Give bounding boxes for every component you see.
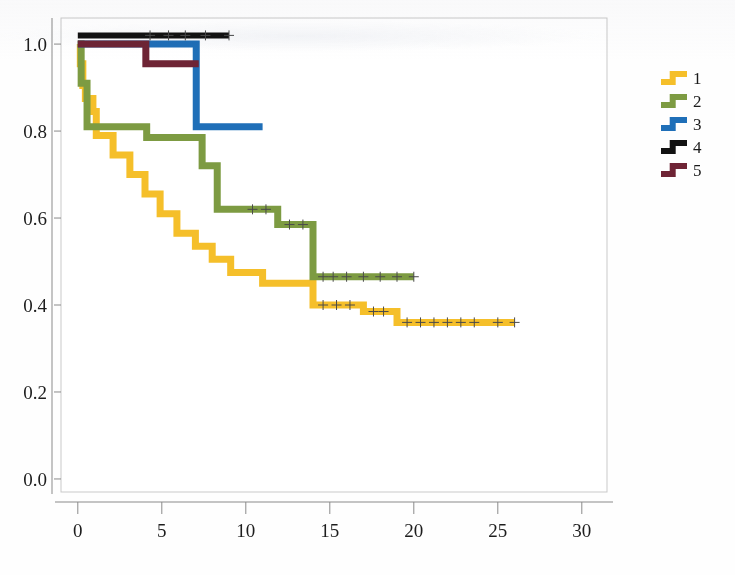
y-tick-label-0.8: 0.8 (23, 121, 47, 142)
legend-label-4: 4 (693, 138, 702, 157)
x-tick-label-25: 25 (488, 520, 507, 541)
legend-swatch-1 (661, 74, 687, 82)
legend-swatch-5 (661, 166, 687, 174)
y-tick-label-1.0: 1.0 (23, 34, 47, 55)
legend-item-2[interactable]: 2 (661, 92, 702, 111)
x-tick-label-15: 15 (320, 520, 339, 541)
y-tick-label-0.6: 0.6 (23, 208, 47, 229)
y-axis-ticks: 0.00.20.40.60.81.0 (23, 34, 61, 490)
legend-item-4[interactable]: 4 (661, 138, 702, 157)
y-tick-label-0.0: 0.0 (23, 469, 47, 490)
legend-swatch-4 (661, 143, 687, 151)
legend-item-1[interactable]: 1 (661, 69, 702, 88)
x-tick-label-20: 20 (404, 520, 423, 541)
x-tick-label-10: 10 (236, 520, 255, 541)
y-tick-label-0.4: 0.4 (23, 295, 47, 316)
plot-panel-background (61, 18, 607, 492)
x-tick-label-5: 5 (157, 520, 167, 541)
plot-canvas: 051015202530 0.00.20.40.60.81.0 12345 (0, 0, 735, 575)
chart-legend: 12345 (661, 69, 702, 180)
x-axis-ticks: 051015202530 (73, 502, 591, 541)
legend-item-5[interactable]: 5 (661, 161, 702, 180)
survival-chart: 051015202530 0.00.20.40.60.81.0 12345 (0, 0, 735, 575)
legend-swatch-2 (661, 97, 687, 105)
x-tick-label-30: 30 (572, 520, 591, 541)
legend-label-1: 1 (693, 69, 702, 88)
legend-label-3: 3 (693, 115, 702, 134)
x-tick-label-0: 0 (73, 520, 83, 541)
legend-item-3[interactable]: 3 (661, 115, 702, 134)
legend-label-5: 5 (693, 161, 702, 180)
legend-swatch-3 (661, 120, 687, 128)
legend-label-2: 2 (693, 92, 702, 111)
y-tick-label-0.2: 0.2 (23, 382, 47, 403)
